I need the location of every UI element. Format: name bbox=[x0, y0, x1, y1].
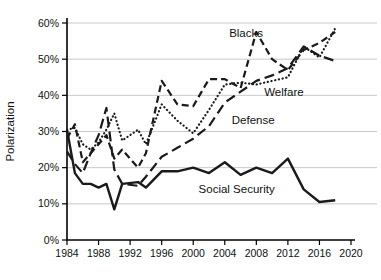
x-tick-label-2012: 2012 bbox=[276, 247, 300, 259]
y-axis-title: Polarization bbox=[4, 101, 16, 161]
x-tick-label-1996: 1996 bbox=[150, 247, 174, 259]
polarization-figure: 0%10%20%30%40%50%60%19841988199219962000… bbox=[0, 0, 381, 280]
y-tick-label-30: 30% bbox=[38, 125, 59, 137]
series-line-blacks bbox=[67, 32, 335, 168]
polarization-line-chart: 0%10%20%30%40%50%60%19841988199219962000… bbox=[0, 0, 381, 280]
y-tick-label-50: 50% bbox=[38, 53, 59, 65]
series-line-defense bbox=[67, 47, 335, 186]
y-tick-label-20: 20% bbox=[38, 161, 59, 173]
x-tick-label-2016: 2016 bbox=[308, 247, 332, 259]
y-tick-label-40: 40% bbox=[38, 89, 59, 101]
y-tick-label-0: 0% bbox=[44, 234, 59, 246]
series-label-defense: Defense bbox=[232, 114, 275, 126]
x-tick-label-2020: 2020 bbox=[339, 247, 363, 259]
x-tick-label-2008: 2008 bbox=[245, 247, 269, 259]
y-tick-label-60: 60% bbox=[38, 17, 59, 29]
series-line-social-security bbox=[67, 130, 335, 210]
series-label-blacks: Blacks bbox=[229, 27, 263, 39]
y-tick-label-10: 10% bbox=[38, 197, 59, 209]
x-tick-label-2000: 2000 bbox=[182, 247, 206, 259]
x-tick-label-1992: 1992 bbox=[118, 247, 142, 259]
x-tick-label-1984: 1984 bbox=[55, 247, 79, 259]
series-label-social-security: Social Security bbox=[199, 183, 275, 195]
series-label-welfare: Welfare bbox=[264, 86, 303, 98]
x-tick-label-1988: 1988 bbox=[87, 247, 111, 259]
x-tick-label-2004: 2004 bbox=[213, 247, 237, 259]
